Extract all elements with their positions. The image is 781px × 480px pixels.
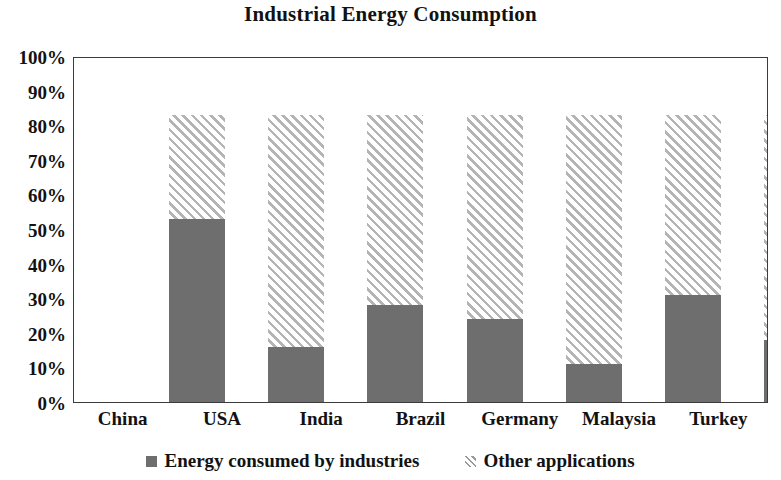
- plot-area: [73, 57, 768, 403]
- y-axis-tick-label: 30%: [0, 290, 66, 309]
- x-axis-tick-label-brazil: Brazil: [371, 408, 470, 431]
- x-axis-tick-label-china: China: [73, 408, 172, 431]
- legend-item[interactable]: Other applications: [465, 450, 634, 472]
- chart-legend: Energy consumed by industriesOther appli…: [0, 450, 781, 472]
- x-axis-tick-label-india: India: [272, 408, 371, 431]
- x-axis-tick-label-germany: Germany: [470, 408, 569, 431]
- legend-item-label: Energy consumed by industries: [164, 450, 419, 472]
- y-axis-tick-label: 0%: [0, 394, 66, 413]
- legend-item-label: Other applications: [483, 450, 634, 472]
- bar-segment-other-applications[interactable]: [367, 115, 423, 305]
- bar-group[interactable]: [566, 115, 622, 403]
- diagonal-hatch-square-icon: [465, 456, 476, 467]
- y-axis-tick-label: 60%: [0, 186, 66, 205]
- bar-segment-energy-consumed-by-industries[interactable]: [764, 340, 768, 403]
- bar-segment-other-applications[interactable]: [268, 115, 324, 347]
- y-axis: 100%90%80%70%60%50%40%30%20%10%0%: [0, 57, 66, 403]
- y-axis-tick-label: 40%: [0, 255, 66, 274]
- bar-segment-energy-consumed-by-industries[interactable]: [169, 219, 225, 403]
- bar-segment-other-applications[interactable]: [566, 115, 622, 364]
- bar-segment-other-applications[interactable]: [764, 115, 768, 340]
- bar-group[interactable]: [467, 115, 523, 403]
- y-axis-tick-label: 100%: [0, 48, 66, 67]
- x-axis-tick-label-usa: USA: [172, 408, 271, 431]
- x-axis-tick-label-turkey: Turkey: [669, 408, 768, 431]
- bar-segment-energy-consumed-by-industries[interactable]: [467, 319, 523, 403]
- bar-segment-other-applications[interactable]: [169, 115, 225, 219]
- bar-segment-energy-consumed-by-industries[interactable]: [665, 295, 721, 403]
- y-axis-tick-label: 90%: [0, 82, 66, 101]
- bar-group[interactable]: [665, 115, 721, 403]
- x-axis: ChinaUSAIndiaBrazilGermanyMalaysiaTurkey: [73, 408, 768, 438]
- y-axis-tick-label: 50%: [0, 221, 66, 240]
- chart-title: Industrial Energy Consumption: [0, 2, 781, 27]
- y-axis-tick-label: 20%: [0, 324, 66, 343]
- bar-group[interactable]: [268, 115, 324, 403]
- bar-group[interactable]: [764, 115, 768, 403]
- bar-group[interactable]: [367, 115, 423, 403]
- bar-segment-other-applications[interactable]: [467, 115, 523, 319]
- bar-group[interactable]: [169, 115, 225, 403]
- solid-gray-square-icon: [146, 456, 157, 467]
- x-axis-tick-label-malaysia: Malaysia: [569, 408, 668, 431]
- y-axis-tick-label: 80%: [0, 117, 66, 136]
- bar-segment-other-applications[interactable]: [665, 115, 721, 295]
- bar-segment-energy-consumed-by-industries[interactable]: [367, 305, 423, 403]
- bar-segment-energy-consumed-by-industries[interactable]: [566, 364, 622, 403]
- y-axis-tick-label: 70%: [0, 151, 66, 170]
- y-axis-tick-label: 10%: [0, 359, 66, 378]
- bars-layer: [147, 115, 768, 403]
- legend-item[interactable]: Energy consumed by industries: [146, 450, 419, 472]
- bar-segment-energy-consumed-by-industries[interactable]: [268, 347, 324, 403]
- chart-container: Industrial Energy Consumption 100%90%80%…: [0, 0, 781, 480]
